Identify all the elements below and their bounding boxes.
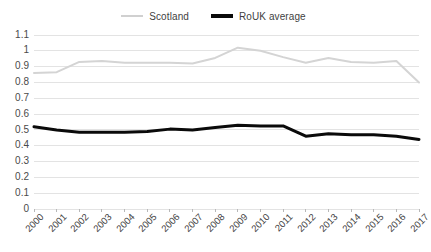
y-axis-tick-label: 0.7	[15, 92, 29, 103]
y-axis-tick-label: 1.1	[15, 29, 29, 40]
x-axis-tick-label: 2011	[272, 211, 295, 234]
y-axis-tick-label: 1	[23, 44, 29, 55]
x-axis-tick-label: 2003	[91, 211, 114, 234]
x-axis-tick-label: 2006	[159, 211, 182, 234]
x-axis-tick-label: 2013	[317, 211, 340, 234]
y-axis-tick-label: 0.1	[15, 187, 29, 198]
y-axis-tick-label: 0.5	[15, 124, 29, 135]
x-axis-tick-label: 2000	[23, 211, 46, 234]
y-axis-tick-label: 0.2	[15, 171, 29, 182]
plot-area: 1.110.90.80.70.60.50.40.30.20.10	[0, 26, 427, 212]
x-axis-tick-label: 2001	[45, 211, 68, 234]
x-axis-tick-label: 2009	[227, 211, 250, 234]
series-line-rouk-average	[34, 125, 419, 139]
x-axis-tick-label: 2004	[113, 211, 136, 234]
x-axis-tick-label: 2016	[385, 211, 408, 234]
plot-svg: 1.110.90.80.70.60.50.40.30.20.10	[0, 26, 427, 212]
legend-line-swatch-scotland	[121, 15, 143, 17]
series-line-scotland	[34, 48, 419, 83]
legend-label-scotland: Scotland	[149, 11, 189, 22]
y-axis-tick-label: 0.9	[15, 60, 29, 71]
y-axis-labels: 1.110.90.80.70.60.50.40.30.20.10	[15, 29, 29, 212]
x-axis-tick-label: 2005	[136, 211, 159, 234]
series-lines	[34, 48, 419, 140]
x-axis-tick-label: 2007	[181, 211, 204, 234]
x-axis-labels: 2000200120022003200420052006200720082009…	[0, 209, 427, 252]
x-axis-tick-label: 2008	[204, 211, 227, 234]
x-axis-tick-label: 2012	[295, 211, 318, 234]
chart-legend: Scotland RoUK average	[0, 6, 427, 26]
y-axis-tick-label: 0.3	[15, 155, 29, 166]
legend-line-swatch-rouk-average	[211, 14, 233, 18]
x-axis-tick-label: 2010	[249, 211, 272, 234]
legend-label-rouk-average: RoUK average	[239, 11, 306, 22]
x-axis-tick-label: 2014	[340, 211, 363, 234]
y-axis-tick-label: 0.6	[15, 108, 29, 119]
x-axis-tick-label: 2015	[362, 211, 385, 234]
y-axis-tick-label: 0.4	[15, 139, 29, 150]
x-axis-tick-label: 2017	[408, 211, 431, 234]
y-axis-tick-label: 0.8	[15, 76, 29, 87]
x-axis-tick-label: 2002	[68, 211, 91, 234]
legend-item-rouk-average: RoUK average	[211, 11, 306, 22]
legend-item-scotland: Scotland	[121, 11, 189, 22]
